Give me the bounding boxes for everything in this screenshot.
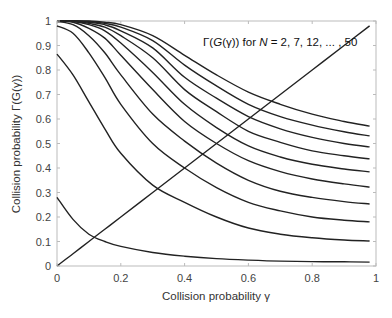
chart: 00.20.40.60.8100.10.20.30.40.50.60.70.80…: [0, 0, 392, 318]
x-axis-label: Collision probability γ: [162, 290, 270, 302]
series-line: [57, 54, 370, 241]
y-tick-label: 0.4: [36, 162, 51, 174]
y-tick-label: 0.1: [36, 236, 51, 248]
y-tick-label: 1: [45, 15, 51, 27]
series-line: [57, 22, 370, 205]
y-tick-label: 0.6: [36, 113, 51, 125]
x-tick-label: 0.2: [113, 272, 128, 284]
chart-annotation: Γ(G(γ)) for N = 2, 7, 12, ... , 50: [203, 36, 357, 48]
y-tick-label: 0.5: [36, 138, 51, 150]
y-tick-label: 0.8: [36, 64, 51, 76]
y-tick-label: 0: [45, 260, 51, 272]
y-tick-label: 0.3: [36, 187, 51, 199]
x-tick-label: 1: [373, 272, 379, 284]
y-tick-label: 0.2: [36, 211, 51, 223]
x-tick-label: 0.8: [305, 272, 320, 284]
x-tick-label: 0.6: [241, 272, 256, 284]
series-line: [57, 26, 370, 222]
y-axis-label: Collision probability Γ(G(γ)): [10, 75, 22, 214]
y-tick-label: 0.7: [36, 89, 51, 101]
series-line: [57, 26, 370, 266]
x-tick-label: 0.4: [177, 272, 192, 284]
series-lines: [57, 21, 370, 266]
x-tick-label: 0: [54, 272, 60, 284]
y-tick-label: 0.9: [36, 40, 51, 52]
